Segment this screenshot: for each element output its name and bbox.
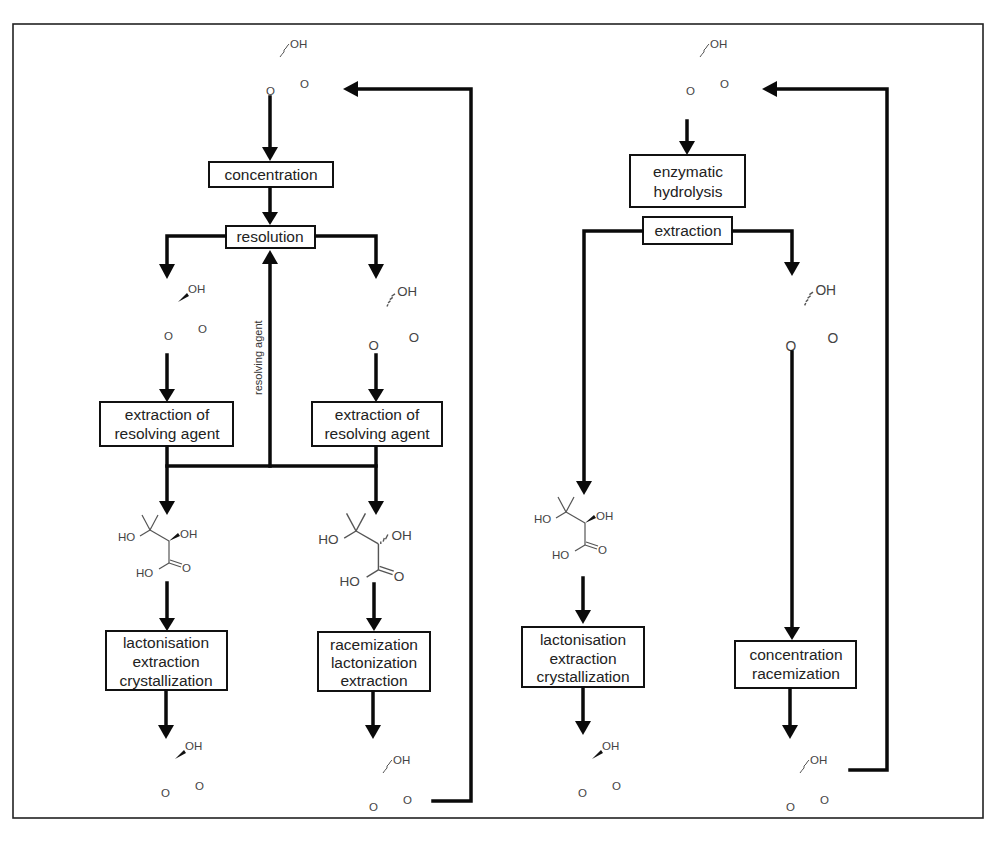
svg-text:enzymatic: enzymatic [653, 163, 723, 180]
svg-text:O: O [409, 330, 419, 345]
step-extraction: extraction [643, 217, 732, 244]
svg-text:O: O [686, 85, 695, 97]
svg-text:racemization: racemization [752, 665, 840, 682]
svg-text:resolving agent: resolving agent [114, 425, 220, 442]
svg-text:HO: HO [339, 574, 359, 589]
svg-text:O: O [612, 780, 621, 792]
carbonyl-o-label: O [300, 78, 309, 90]
svg-text:OH: OH [391, 528, 411, 543]
svg-text:hydrolysis: hydrolysis [654, 183, 723, 200]
svg-text:O: O [394, 569, 405, 584]
svg-text:racemization: racemization [330, 636, 418, 653]
svg-text:O: O [827, 331, 838, 346]
svg-text:extraction of: extraction of [125, 406, 210, 423]
step-resolution: resolution [226, 226, 315, 248]
svg-text:O: O [195, 780, 204, 792]
svg-text:extraction: extraction [549, 650, 616, 667]
svg-text:OH: OH [397, 284, 417, 299]
svg-text:HO: HO [534, 513, 551, 525]
clipped-caption-text [0, 850, 995, 860]
svg-text:OH: OH [710, 38, 727, 50]
step-lactonisation-extraction-crystallization-left: lactonisation extraction crystallization [106, 631, 227, 690]
svg-text:O: O [182, 562, 191, 574]
svg-text:extraction of: extraction of [335, 406, 420, 423]
svg-text:OH: OH [185, 740, 202, 752]
svg-text:OH: OH [602, 740, 619, 752]
step-racemization-lactonization-extraction: racemization lactonization extraction [318, 632, 430, 691]
svg-text:HO: HO [136, 567, 153, 579]
svg-text:O: O [598, 544, 607, 556]
svg-text:OH: OH [188, 283, 205, 295]
step-extraction-resolving-agent-right: extraction of resolving agent [312, 402, 442, 446]
svg-text:HO: HO [118, 531, 135, 543]
svg-text:OH: OH [810, 754, 827, 766]
svg-text:lactonization: lactonization [331, 654, 417, 671]
resolving-agent-label: resolving agent [252, 320, 264, 395]
svg-text:OH: OH [393, 754, 410, 766]
svg-text:O: O [161, 787, 170, 799]
svg-text:concentration: concentration [749, 646, 842, 663]
ring-o-label: O [266, 85, 275, 97]
svg-text:crystallization: crystallization [119, 672, 212, 689]
step-extraction-resolving-agent-left: extraction of resolving agent [100, 402, 233, 446]
svg-text:resolving agent: resolving agent [324, 425, 430, 442]
svg-text:extraction: extraction [340, 672, 407, 689]
svg-text:resolution: resolution [236, 228, 303, 245]
step-concentration-racemization: concentration racemization [735, 641, 856, 688]
svg-text:O: O [720, 78, 729, 90]
process-scheme-figure: OH O O concentration resolution resolvin… [0, 0, 995, 860]
svg-text:lactonisation: lactonisation [540, 631, 626, 648]
step-concentration: concentration [209, 162, 333, 187]
svg-text:extraction: extraction [654, 222, 721, 239]
svg-text:HO: HO [318, 532, 338, 547]
svg-text:OH: OH [596, 510, 613, 522]
svg-text:O: O [820, 794, 829, 806]
step-enzymatic-hydrolysis: enzymatic hydrolysis [630, 155, 745, 207]
svg-text:OH: OH [815, 283, 836, 298]
svg-text:crystallization: crystallization [536, 668, 629, 685]
svg-text:O: O [164, 330, 173, 342]
svg-text:O: O [786, 801, 795, 813]
svg-text:concentration: concentration [224, 166, 317, 183]
svg-text:OH: OH [180, 528, 197, 540]
oh-label: OH [290, 38, 307, 50]
step-lactonisation-extraction-crystallization-right: lactonisation extraction crystallization [522, 627, 644, 687]
svg-text:O: O [403, 794, 412, 806]
svg-text:lactonisation: lactonisation [123, 634, 209, 651]
svg-text:O: O [369, 338, 379, 353]
svg-text:HO: HO [552, 549, 569, 561]
svg-text:extraction: extraction [132, 653, 199, 670]
svg-text:O: O [578, 787, 587, 799]
svg-text:O: O [198, 323, 207, 335]
svg-text:O: O [369, 801, 378, 813]
